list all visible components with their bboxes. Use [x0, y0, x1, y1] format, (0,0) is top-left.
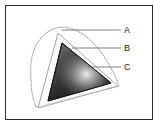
callout-label-c: C: [124, 63, 131, 72]
chromaticity-figure: A B C: [0, 0, 154, 135]
callout-label-a: A: [124, 26, 130, 35]
callout-label-b: B: [124, 44, 130, 53]
